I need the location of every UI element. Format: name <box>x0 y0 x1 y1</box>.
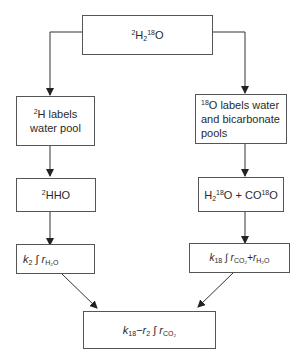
hho-box: 2HHO <box>16 178 96 212</box>
deuterium-label-box: 2H labelswater pool <box>16 96 95 146</box>
k2-equation-box: k2 ∫ rH₂O <box>16 244 95 274</box>
source-box: 2H218O <box>82 15 213 55</box>
oxygen18-label-box: 18O labels waterand bicarbonatepools <box>195 94 287 144</box>
result-equation-box: k18−r2 ∫ rCO₂ <box>83 311 216 349</box>
k18-equation-box: k18 ∫ rCO₂+rH₂O <box>189 243 290 273</box>
water-bicarbonate-box: H218O + CO18O <box>198 177 284 212</box>
